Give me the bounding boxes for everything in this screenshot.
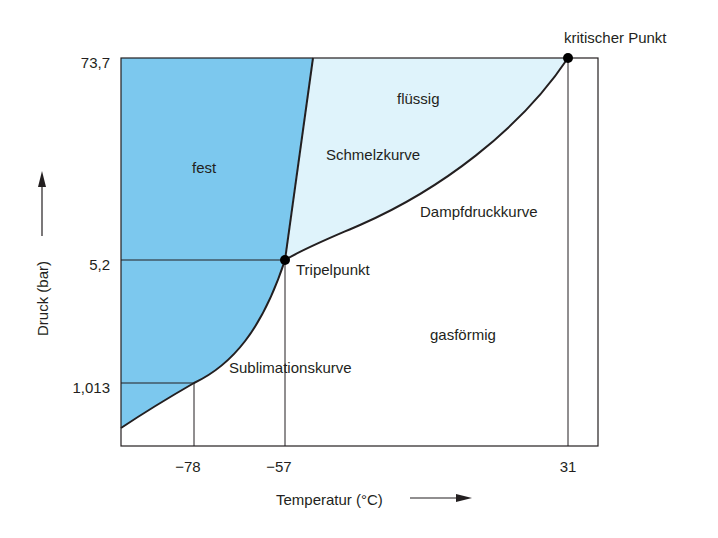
y-tick-5-2: 5,2 <box>89 256 110 273</box>
triple-point-marker <box>280 255 290 265</box>
x-axis-label: Temperatur (°C) <box>276 491 383 508</box>
label-sublimationskurve: Sublimationskurve <box>229 359 352 376</box>
critical-point-marker <box>563 53 573 63</box>
label-dampfdruckkurve: Dampfdruckkurve <box>420 203 538 220</box>
label-gasfoermig: gasförmig <box>430 326 496 343</box>
y-axis-arrow-icon <box>38 171 46 187</box>
label-tripelpunkt: Tripelpunkt <box>296 261 370 278</box>
y-axis-label: Druck (bar) <box>34 261 51 336</box>
x-axis-arrow-icon <box>456 494 472 502</box>
x-tick-31: 31 <box>560 458 577 475</box>
y-tick-1-013: 1,013 <box>72 379 110 396</box>
x-tick-minus78: −78 <box>175 458 200 475</box>
label-fest: fest <box>192 159 217 176</box>
label-fluessig: flüssig <box>397 90 440 107</box>
label-schmelzkurve: Schmelzkurve <box>326 146 420 163</box>
phase-diagram: fest flüssig gasförmig Schmelzkurve Damp… <box>0 0 718 538</box>
label-kritischer-punkt: kritischer Punkt <box>564 29 667 46</box>
x-tick-minus57: −57 <box>266 458 291 475</box>
y-tick-73-7: 73,7 <box>81 54 110 71</box>
